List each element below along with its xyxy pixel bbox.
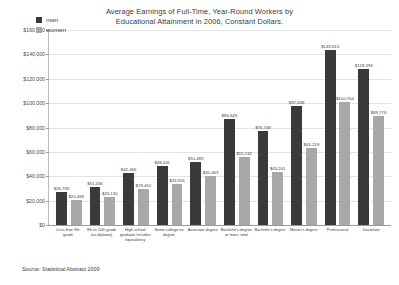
bar-value-label: $128,393 — [355, 63, 373, 68]
bar-value-label: $76,749 — [255, 125, 271, 130]
bar-value-label: $42,466 — [121, 167, 137, 172]
bar-group: $26,769$20,469 — [52, 30, 86, 225]
bar-value-label: $40,463 — [203, 170, 219, 175]
x-axis-category-label: Bachelor's degree — [253, 228, 287, 262]
bar-slot-women: $20,469 — [69, 30, 84, 225]
bar-value-label: $26,769 — [54, 186, 70, 191]
bar-value-label: $89,776 — [371, 110, 387, 115]
bar-value-label: $55,532 — [236, 151, 252, 156]
y-axis-tick-label: $20,000 — [26, 198, 45, 204]
legend-item-women: women — [36, 26, 66, 33]
bar-slot-women: $55,532 — [237, 30, 252, 225]
bar-women[interactable]: $29,410 — [138, 189, 149, 225]
chart-container: Average Earnings of Full-Time, Year-Roun… — [0, 0, 399, 285]
bar-men[interactable]: $76,749 — [258, 131, 269, 225]
chart-legend: men women — [36, 16, 66, 36]
bar-value-label: $48,431 — [154, 160, 170, 165]
bar-group: $31,436$23,130 — [86, 30, 120, 225]
x-axis-category-label: Associate degree — [186, 228, 220, 262]
bar-women[interactable]: $89,776 — [373, 116, 384, 225]
bar-men[interactable]: $97,638 — [291, 106, 302, 225]
bar-women[interactable]: $23,130 — [104, 197, 115, 225]
x-axis-category-label: High school graduate includes equivalenc… — [118, 228, 152, 262]
x-axis-category-label: Doctorate — [354, 228, 388, 262]
y-axis-tick-label: $140,000 — [23, 51, 45, 57]
x-axis-category-label: Some college no degree — [152, 228, 186, 262]
bar-women[interactable]: $40,463 — [205, 176, 216, 225]
bar-value-label: $86,643 — [222, 113, 238, 118]
x-axis-category-label: Master's degree — [287, 228, 321, 262]
bar-slot-women: $63,219 — [304, 30, 319, 225]
y-axis-tick-label: $60,000 — [26, 149, 45, 155]
bar-men[interactable]: $48,431 — [157, 166, 168, 225]
y-axis-tick-label: $40,000 — [26, 173, 45, 179]
legend-swatch-men — [36, 17, 42, 23]
plot-area: $0$20,000$40,000$60,000$80,000$100,000$1… — [48, 30, 391, 226]
legend-item-men: men — [36, 16, 66, 23]
bar-men[interactable]: $31,436 — [90, 187, 101, 225]
y-axis-tick-label: $0 — [39, 222, 45, 228]
bar-value-label: $29,410 — [136, 183, 152, 188]
bar-men[interactable]: $42,466 — [123, 173, 134, 225]
bar-slot-men: $128,393 — [356, 30, 371, 225]
legend-label-men: men — [46, 16, 58, 23]
legend-swatch-women — [36, 27, 42, 33]
bar-value-label: $23,130 — [102, 191, 118, 196]
legend-label-women: women — [46, 26, 66, 33]
y-axis-tick-label: $100,000 — [23, 100, 45, 106]
bar-women[interactable]: $100,704 — [339, 102, 350, 225]
bar-value-label: $63,219 — [304, 142, 320, 147]
bar-slot-women: $43,201 — [270, 30, 285, 225]
bar-slot-men: $143,613 — [323, 30, 338, 225]
bar-value-label: $100,704 — [336, 96, 354, 101]
bar-value-label: $31,436 — [87, 181, 103, 186]
x-axis-category-label: Bachelor's degree or more, total — [220, 228, 254, 262]
bar-slot-men: $51,485 — [188, 30, 203, 225]
bar-slot-women: $89,776 — [371, 30, 386, 225]
y-axis-tick-label: $80,000 — [26, 125, 45, 131]
bar-slot-men: $31,436 — [88, 30, 103, 225]
bar-group: $128,393$89,776 — [354, 30, 388, 225]
bar-value-label: $33,916 — [169, 178, 185, 183]
bar-group: $86,643$55,532 — [220, 30, 254, 225]
bar-slot-women: $33,916 — [170, 30, 185, 225]
bar-slot-women: $40,463 — [203, 30, 218, 225]
bar-men[interactable]: $128,393 — [358, 69, 369, 225]
bar-value-label: $97,638 — [289, 100, 305, 105]
bar-value-label: $20,469 — [68, 194, 84, 199]
bar-women[interactable]: $55,532 — [239, 157, 250, 225]
bar-groups: $26,769$20,469$31,436$23,130$42,466$29,4… — [49, 30, 391, 225]
bar-value-label: $43,201 — [270, 166, 286, 171]
bar-men[interactable]: $143,613 — [325, 50, 336, 225]
bar-value-label: $143,613 — [321, 44, 339, 49]
bar-group: $97,638$63,219 — [287, 30, 321, 225]
source-note: Source: Statistical Abstract 2009 — [22, 266, 100, 272]
bar-group: $42,466$29,410 — [119, 30, 153, 225]
bar-slot-men: $86,643 — [222, 30, 237, 225]
bar-men[interactable]: $86,643 — [224, 119, 235, 225]
bar-slot-men: $26,769 — [54, 30, 69, 225]
bar-group: $48,431$33,916 — [153, 30, 187, 225]
bar-slot-men: $76,749 — [256, 30, 271, 225]
bar-value-label: $51,485 — [188, 156, 204, 161]
bar-slot-men: $48,431 — [155, 30, 170, 225]
x-axis-category-label: 9th to 12th grade (no diploma) — [85, 228, 119, 262]
x-axis-category-label: Less than 9th grade — [51, 228, 85, 262]
bar-women[interactable]: $20,469 — [71, 200, 82, 225]
bar-group: $51,485$40,463 — [186, 30, 220, 225]
bar-slot-men: $42,466 — [121, 30, 136, 225]
bar-women[interactable]: $33,916 — [172, 184, 183, 225]
bar-slot-women: $23,130 — [102, 30, 117, 225]
bar-men[interactable]: $51,485 — [190, 162, 201, 225]
y-axis-tick-label: $120,000 — [23, 76, 45, 82]
bar-slot-women: $100,704 — [338, 30, 353, 225]
bar-men[interactable]: $26,769 — [56, 192, 67, 225]
bar-group: $143,613$100,704 — [321, 30, 355, 225]
bar-women[interactable]: $63,219 — [306, 148, 317, 225]
bar-slot-women: $29,410 — [136, 30, 151, 225]
bar-women[interactable]: $43,201 — [272, 172, 283, 225]
y-axis-tick-mark — [46, 225, 49, 226]
x-axis-category-label: Professional — [321, 228, 355, 262]
x-axis-labels: Less than 9th grade9th to 12th grade (no… — [48, 228, 391, 262]
bar-group: $76,749$43,201 — [254, 30, 288, 225]
